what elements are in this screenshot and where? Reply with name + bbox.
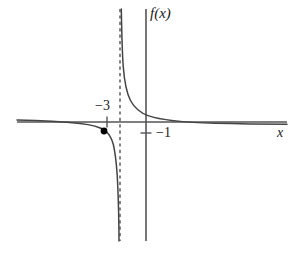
filled-point-marker — [101, 128, 108, 135]
y-tick-label-neg1: −1 — [156, 126, 171, 140]
graph-canvas — [0, 0, 296, 257]
x-axis-label: x — [277, 126, 283, 140]
x-tick-label-neg3: −3 — [95, 99, 110, 113]
function-graph-figure: f(x) x −3 −1 — [0, 0, 296, 257]
curve-left-branch — [17, 120, 119, 241]
y-axis-label: f(x) — [150, 6, 171, 21]
